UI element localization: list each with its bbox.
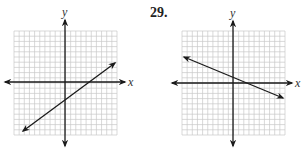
y-axis-label: y [229,6,236,20]
graphs-canvas: xy xy [0,0,305,163]
graph-left: xy [5,5,134,146]
graph-right: xy [172,6,301,146]
x-axis-label: x [294,76,301,90]
x-axis-label: x [127,75,134,89]
y-axis-label: y [61,5,68,19]
plotted-line [23,63,115,131]
